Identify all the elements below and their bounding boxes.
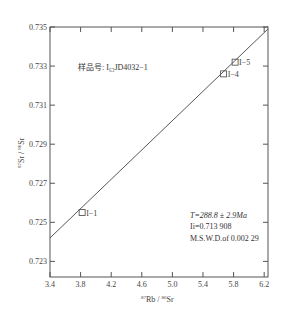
point-label: I−1 [86, 209, 97, 218]
y-tick-label: 0.731 [29, 101, 47, 110]
x-tick-label: 4.2 [106, 280, 116, 289]
data-points: I−1I−4I−5 [79, 58, 250, 217]
y-tick-label: 0.733 [29, 62, 47, 71]
y-tick-label: 0.729 [29, 140, 47, 149]
y-tick-label: 0.727 [29, 179, 47, 188]
x-tick-label: 5.0 [167, 280, 177, 289]
x-tick-label: 5.4 [198, 280, 208, 289]
data-point: I−4 [221, 70, 239, 79]
y-axis-title: 87Sr / 86Sr [17, 137, 26, 168]
data-point: I−1 [79, 209, 97, 218]
x-tick-label: 5.8 [229, 280, 239, 289]
point-label: I−5 [239, 58, 250, 67]
y-tick-label: 0.723 [29, 257, 47, 266]
mswd-annotation: M.S.W.D.of 0.002 29 [190, 234, 259, 243]
isochron-chart: 3.43.84.24.65.05.45.86.2 0.7230.7250.727… [0, 0, 287, 317]
x-tick-label: 3.4 [45, 280, 55, 289]
y-tick-label: 0.725 [29, 218, 47, 227]
point-label: I−4 [228, 70, 239, 79]
y-tick-label: 0.735 [29, 23, 47, 32]
data-point: I−5 [232, 58, 250, 67]
x-tick-label: 6.2 [259, 280, 269, 289]
isochron-line [50, 29, 268, 238]
initial-ratio-annotation: Ii=0.713 908 [190, 222, 231, 231]
sample-label: 样品号: I₆₃JD4032−1 [78, 62, 148, 72]
x-tick-label: 3.8 [76, 280, 86, 289]
x-tick-label: 4.6 [137, 280, 147, 289]
x-axis-title: 87Rb / 86Sr [141, 295, 174, 304]
age-annotation: T=288.8 ± 2.9Ma [190, 211, 247, 220]
square-marker-icon [79, 210, 85, 216]
